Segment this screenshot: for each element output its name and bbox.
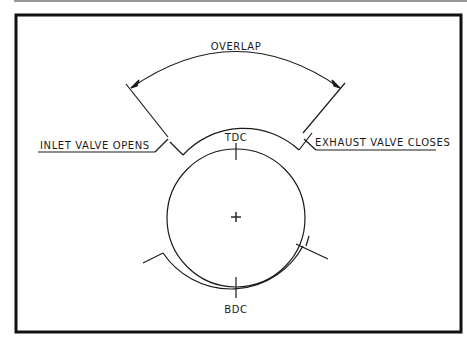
bdc-label: BDC [224,304,247,315]
diagram-frame [16,15,461,332]
lower-right-break [306,236,309,246]
center-cross-icon [231,212,241,222]
arrowhead-right-icon [332,80,340,88]
valve-timing-diagram: OVERLAP INLET VALVE OPENS EXHAUST VALVE … [0,0,467,342]
inlet-valve-opens-label: INLET VALVE OPENS [40,140,150,151]
overlap-label: OVERLAP [211,41,262,52]
arrowhead-left-icon [131,80,139,88]
exhaust-valve-closes-label: EXHAUST VALVE CLOSES [315,137,450,148]
overlap-arc [131,52,340,89]
tdc-label: TDC [224,132,248,143]
